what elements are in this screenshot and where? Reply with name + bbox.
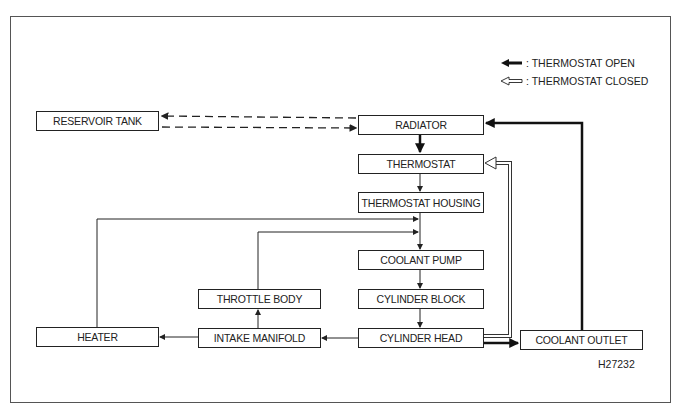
node-heater: HEATER bbox=[36, 327, 159, 347]
hollow-arrow-icon bbox=[500, 76, 524, 86]
node-throttle-body: THROTTLE BODY bbox=[198, 289, 321, 309]
dashed-line-radiator-to-reservoir bbox=[162, 116, 356, 118]
hollow-arrow-inner bbox=[483, 163, 510, 336]
node-coolant-outlet: COOLANT OUTLET bbox=[520, 330, 643, 350]
legend-closed: : THERMOSTAT CLOSED bbox=[500, 75, 648, 87]
legend-open-label: : THERMOSTAT OPEN bbox=[526, 57, 635, 69]
node-intake-manifold: INTAKE MANIFOLD bbox=[198, 328, 321, 348]
node-radiator: RADIATOR bbox=[358, 115, 484, 135]
node-thermostat: THERMOSTAT bbox=[358, 154, 484, 174]
hollow-arrow-head-to-thermostat bbox=[483, 163, 510, 336]
dashed-line-reservoir-to-radiator bbox=[162, 127, 356, 128]
hollow-arrowhead bbox=[485, 157, 496, 169]
node-cylinder-block: CYLINDER BLOCK bbox=[358, 289, 484, 309]
arrow-outlet-to-radiator bbox=[486, 123, 582, 330]
node-cylinder-head: CYLINDER HEAD bbox=[358, 328, 484, 348]
figure-code: H27232 bbox=[598, 358, 635, 370]
node-thermostat-housing: THERMOSTAT HOUSING bbox=[358, 192, 484, 213]
legend-open: : THERMOSTAT OPEN bbox=[500, 57, 635, 69]
node-reservoir-tank: RESERVOIR TANK bbox=[36, 111, 159, 131]
solid-arrow-icon bbox=[500, 58, 524, 68]
node-coolant-pump: COOLANT PUMP bbox=[358, 250, 484, 270]
legend-closed-label: : THERMOSTAT CLOSED bbox=[526, 75, 648, 87]
